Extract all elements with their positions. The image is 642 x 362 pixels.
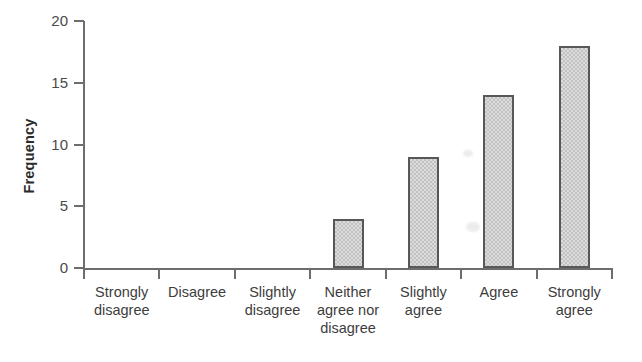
x-axis-label: Agree (461, 283, 536, 301)
bar (408, 157, 439, 268)
bar (483, 95, 514, 268)
bar-chart: Frequency 05101520 Strongly disagreeDisa… (0, 0, 642, 362)
scan-smudge (466, 222, 480, 232)
x-axis-label: Slightly agree (386, 283, 461, 319)
scan-smudge (463, 150, 473, 157)
bar (333, 219, 364, 268)
x-axis-label: Slightly disagree (235, 283, 310, 319)
x-axis-label: Neither agree nor disagree (310, 283, 385, 337)
bar (559, 46, 590, 268)
x-axis-label: Strongly disagree (84, 283, 159, 319)
x-axis-label: Disagree (159, 283, 234, 301)
x-axis-label: Strongly agree (537, 283, 612, 319)
